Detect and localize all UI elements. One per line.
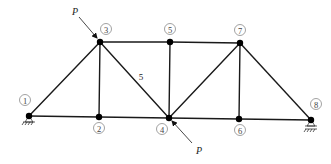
member-4-5 bbox=[169, 42, 170, 118]
load-label: P bbox=[71, 6, 78, 17]
svg-text:3: 3 bbox=[104, 25, 108, 35]
truss-diagram: PP 12345678 5 bbox=[0, 0, 331, 164]
member-4-6 bbox=[169, 118, 239, 119]
svg-text:2: 2 bbox=[97, 124, 101, 134]
load-arrow-icon bbox=[79, 17, 97, 38]
member-label: 5 bbox=[139, 72, 144, 82]
node-label-5: 5 bbox=[165, 24, 176, 35]
member-6-7 bbox=[239, 43, 240, 119]
member-7-8 bbox=[240, 43, 311, 120]
node-label-4: 4 bbox=[157, 124, 168, 135]
truss-members bbox=[29, 42, 311, 120]
node-label-7: 7 bbox=[235, 25, 246, 36]
member-3-4 bbox=[100, 42, 169, 118]
node-4 bbox=[166, 115, 172, 121]
svg-text:8: 8 bbox=[314, 100, 318, 110]
svg-text:7: 7 bbox=[238, 26, 242, 36]
node-2 bbox=[96, 114, 102, 120]
node-label-8: 8 bbox=[311, 99, 322, 110]
node-3 bbox=[97, 39, 103, 45]
member-4-7 bbox=[169, 43, 240, 118]
node-6 bbox=[236, 116, 242, 122]
svg-text:1: 1 bbox=[23, 96, 27, 106]
member-1-3 bbox=[29, 42, 100, 116]
member-6-8 bbox=[239, 119, 311, 120]
svg-text:6: 6 bbox=[238, 126, 242, 136]
member-2-4 bbox=[99, 117, 169, 118]
node-label-1: 1 bbox=[20, 95, 31, 106]
load-label: P bbox=[195, 145, 202, 156]
member-5-7 bbox=[170, 42, 240, 43]
member-2-3 bbox=[99, 42, 100, 117]
node-label-2: 2 bbox=[94, 123, 105, 134]
member-1-2 bbox=[29, 116, 99, 117]
node-1 bbox=[26, 113, 32, 119]
node-8 bbox=[308, 117, 314, 123]
node-7 bbox=[237, 40, 243, 46]
node-5 bbox=[167, 39, 173, 45]
svg-text:5: 5 bbox=[168, 25, 172, 35]
node-label-3: 3 bbox=[101, 24, 112, 35]
point-loads: PP bbox=[71, 6, 202, 156]
node-label-6: 6 bbox=[235, 125, 246, 136]
load-arrow-icon bbox=[172, 121, 192, 143]
member-labels: 5 bbox=[139, 72, 144, 82]
